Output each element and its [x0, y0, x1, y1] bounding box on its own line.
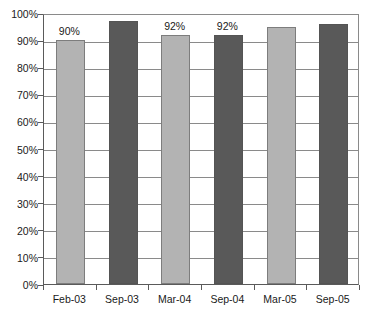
- x-tick-mark: [306, 285, 307, 290]
- gridline: [44, 150, 358, 151]
- gridline: [44, 69, 358, 70]
- y-tick-label: 0%: [0, 280, 38, 291]
- bar: [161, 35, 190, 284]
- y-tick-label: 10%: [0, 253, 38, 264]
- bar: [214, 35, 243, 284]
- x-tick-mark: [148, 285, 149, 290]
- y-tick-label: 100%: [0, 9, 38, 20]
- y-tick-label: 60%: [0, 117, 38, 128]
- y-tick-label: 90%: [0, 36, 38, 47]
- gridline: [44, 96, 358, 97]
- bar: [56, 40, 85, 284]
- x-tick-mark: [201, 285, 202, 290]
- x-tick-label: Feb-03: [53, 294, 86, 305]
- bar-value-label: 90%: [59, 26, 80, 37]
- bar-value-label: 92%: [164, 21, 185, 32]
- y-tick-label: 30%: [0, 198, 38, 209]
- bar: [267, 27, 296, 284]
- x-tick-mark: [254, 285, 255, 290]
- gridline: [44, 204, 358, 205]
- x-tick-mark: [359, 285, 360, 290]
- y-tick-label: 80%: [0, 63, 38, 74]
- gridline: [44, 177, 358, 178]
- bar: [109, 21, 138, 284]
- x-tick-mark: [43, 285, 44, 290]
- x-tick-label: Sep-04: [210, 294, 244, 305]
- x-tick-label: Mar-05: [263, 294, 296, 305]
- x-tick-label: Mar-04: [158, 294, 191, 305]
- bar-chart: 0%10%20%30%40%50%60%70%80%90%100% Feb-03…: [0, 0, 375, 324]
- bar-value-label: 92%: [217, 21, 238, 32]
- y-tick-label: 50%: [0, 144, 38, 155]
- x-tick-label: Sep-05: [316, 294, 350, 305]
- x-tick-label: Sep-03: [105, 294, 139, 305]
- gridline: [44, 123, 358, 124]
- x-tick-mark: [96, 285, 97, 290]
- y-tick-label: 20%: [0, 226, 38, 237]
- gridline: [44, 231, 358, 232]
- gridline: [44, 42, 358, 43]
- y-tick-label: 40%: [0, 171, 38, 182]
- y-tick-label: 70%: [0, 90, 38, 101]
- plot-area: [43, 14, 359, 285]
- bar: [319, 24, 348, 284]
- gridline: [44, 258, 358, 259]
